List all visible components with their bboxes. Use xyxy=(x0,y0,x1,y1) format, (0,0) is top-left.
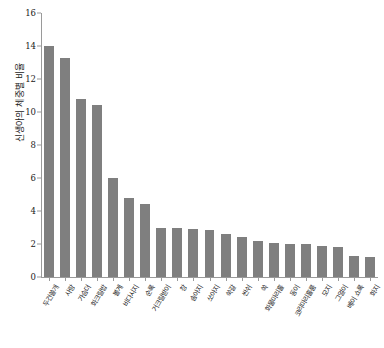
bar xyxy=(253,241,263,277)
x-tick-label: 두건쓸개 xyxy=(40,283,60,308)
bar-series xyxy=(41,13,378,277)
bar xyxy=(333,247,343,277)
x-tick-label: 동이 xyxy=(287,283,301,298)
x-tick-mark xyxy=(129,277,130,281)
bar xyxy=(301,244,311,277)
x-tick-label: 싼쉬 xyxy=(239,283,253,298)
bar xyxy=(92,105,102,277)
x-tick-mark xyxy=(354,277,355,281)
x-tick-mark xyxy=(242,277,243,281)
bar xyxy=(285,244,295,277)
plot-area: 0246810121416 xyxy=(41,13,378,277)
x-tick-label: 창 xyxy=(177,283,189,293)
bar xyxy=(221,234,231,277)
x-tick-mark xyxy=(210,277,211,281)
x-tick-mark xyxy=(145,277,146,281)
x-tick-label: 화지 xyxy=(367,283,381,298)
x-tick-mark xyxy=(258,277,259,281)
x-tick-mark xyxy=(177,277,178,281)
y-axis-title: 신생아의 체중별 비율 xyxy=(13,38,26,168)
x-tick-mark xyxy=(193,277,194,281)
x-tick-mark xyxy=(370,277,371,281)
bar xyxy=(44,46,54,277)
bar xyxy=(205,230,215,277)
x-tick-mark xyxy=(274,277,275,281)
x-tick-mark xyxy=(338,277,339,281)
x-tick-label: 볼게 xyxy=(110,283,124,298)
x-tick-label: 쏙 xyxy=(258,283,270,293)
bar xyxy=(124,198,134,277)
x-tick-label: 사랑 xyxy=(62,283,76,298)
x-tick-mark xyxy=(161,277,162,281)
x-tick-mark xyxy=(65,277,66,281)
bar xyxy=(60,58,70,277)
bar xyxy=(317,246,327,277)
x-tick-mark xyxy=(49,277,50,281)
x-tick-mark xyxy=(290,277,291,281)
bar xyxy=(349,256,359,277)
x-tick-mark xyxy=(226,277,227,281)
x-tick-label: 쑥갈 xyxy=(223,283,237,298)
x-tick-mark xyxy=(322,277,323,281)
bar xyxy=(156,228,166,278)
bar xyxy=(237,237,247,277)
bar xyxy=(76,99,86,277)
x-tick-label: 모지 xyxy=(319,283,333,298)
x-tick-label: 솜아지 xyxy=(188,283,205,303)
bar xyxy=(269,243,279,277)
bar-chart: 신생아의 체중별 비율 0246810121416 두건쓸개사랑가슴더화크릴밥볼… xyxy=(0,0,384,348)
x-tick-label: 순록 xyxy=(142,283,156,298)
x-tick-mark xyxy=(306,277,307,281)
bar xyxy=(365,257,375,277)
bar xyxy=(188,229,198,277)
bar xyxy=(108,178,118,277)
bar xyxy=(172,228,182,278)
bar xyxy=(140,204,150,277)
x-tick-mark xyxy=(113,277,114,281)
x-tick-label: 쏘아지 xyxy=(204,283,221,303)
x-tick-mark xyxy=(81,277,82,281)
x-tick-mark xyxy=(97,277,98,281)
